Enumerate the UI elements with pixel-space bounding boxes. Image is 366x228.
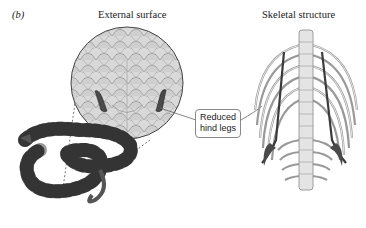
callout-line-1: Reduced bbox=[196, 112, 240, 123]
snake-illustration bbox=[20, 129, 131, 202]
reduced-hind-legs-callout: Reduced hind legs bbox=[195, 109, 241, 138]
skeletal-structure-view bbox=[255, 30, 357, 190]
callout-line-2: hind legs bbox=[196, 123, 240, 134]
diagram-art bbox=[0, 0, 366, 228]
